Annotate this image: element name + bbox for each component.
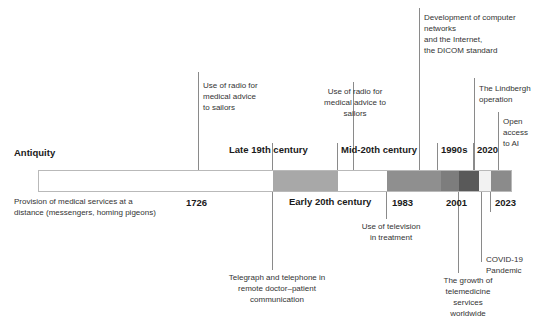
year-2023: 2023 [495, 197, 516, 208]
era-label-mid-20th-century: Mid-20th century [341, 145, 417, 156]
connector-computer-networks [419, 8, 420, 170]
note-covid-pandemic: COVID-19 Pandemic [486, 254, 544, 276]
connector-radio-sailors-1 [198, 72, 199, 170]
era-label-late-19th-century: Late 19th century [229, 145, 308, 156]
bar-segment-early-20th-century [338, 171, 387, 191]
era-label-2020: 2020 [477, 145, 498, 156]
note-telemedicine-growth: The growth of telemedicine services worl… [422, 275, 514, 319]
era-label-1990s: 1990s [441, 145, 467, 156]
bar-segment-2020-2023-era [491, 171, 511, 191]
year-1983: 1983 [392, 197, 413, 208]
note-telegraph-telephone: Telegraph and telephone in remote doctor… [203, 272, 351, 305]
connector-open-access-ai [498, 112, 499, 170]
note-radio-sailors-2: Use of radio for medical advice to sailo… [305, 86, 405, 119]
year-2001: 2001 [446, 197, 467, 208]
connector-era-divider-2020 [473, 143, 474, 170]
connector-era-divider-mid20 [337, 143, 338, 170]
note-computer-networks-dicom: Development of computer networks and the… [424, 12, 544, 56]
note-television-treatment: Use of television in treatment [339, 221, 443, 243]
timeline-diagram: AntiquityLate 19th centuryMid-20th centu… [0, 0, 545, 330]
bar-segment-1983-era [441, 171, 459, 191]
connector-era-divider-1990s [437, 143, 438, 170]
connector-year-2023 [490, 192, 491, 212]
connector-lindbergh [474, 78, 475, 170]
note-radio-sailors-1: Use of radio for medical advice to sailo… [203, 80, 298, 113]
bar-segment-antiquity [39, 171, 273, 191]
bar-segment-mid-20th-century [387, 171, 441, 191]
description-antiquity: Provision of medical services at a dista… [14, 196, 190, 218]
bar-segment-late-19th-century [273, 171, 338, 191]
timeline-bar [38, 170, 512, 192]
bar-segment-2001-era [479, 171, 491, 191]
era-label-early-20th-century: Early 20th century [289, 197, 371, 208]
connector-telegraph-telephone [272, 192, 273, 270]
connector-television-treatment [386, 192, 387, 219]
note-lindbergh-operation: The Lindbergh operation [479, 83, 543, 105]
era-label-antiquity: Antiquity [14, 148, 55, 159]
connector-covid-pandemic [481, 192, 482, 262]
bar-segment-1990s-era [459, 171, 479, 191]
note-open-access-ai: Open access to AI [503, 116, 543, 149]
